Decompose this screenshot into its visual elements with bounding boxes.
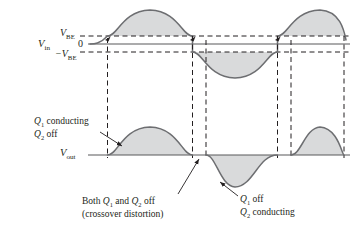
vbe-negative-label: −VBE — [55, 48, 77, 62]
leader-crossover — [178, 159, 199, 194]
leader-q1-conducting — [100, 132, 122, 146]
annotation-crossover-distortion: Both Q1 and Q2 off (crossover distortion… — [82, 196, 164, 220]
vout-axis-label: Vout — [60, 147, 76, 161]
vin-axis-label: Vin — [38, 38, 50, 52]
annotation-crossover-line1: Both Q1 and Q2 off — [82, 196, 164, 208]
zero-level-label: 0 — [78, 38, 83, 50]
vout-positive-lobe-1 — [108, 127, 193, 155]
vbe-positive-label: VBE — [60, 27, 75, 41]
vout-positive-lobe-2 — [291, 127, 344, 155]
vin-negative-shaded-lobe — [193, 52, 278, 78]
annotation-q1-off-line1: Q1 off — [240, 194, 295, 206]
vin-positive-shaded-lobe — [108, 10, 193, 36]
annotation-q1-off: Q1 off Q2 conducting — [240, 194, 295, 220]
annotation-q1-conducting-line1: Q1 conducting — [34, 116, 89, 128]
crossover-distortion-figure: Vin VBE 0 −VBE Vout Q1 conducting Q2 off… — [0, 0, 356, 234]
annotation-q1-off-line2: Q2 conducting — [240, 207, 295, 219]
annotation-q1-conducting: Q1 conducting Q2 off — [34, 116, 89, 142]
vout-negative-lobe — [206, 155, 278, 187]
annotation-crossover-line2: (crossover distortion) — [82, 209, 164, 220]
vin-positive-shaded-lobe-2 — [278, 10, 345, 36]
annotation-q1-conducting-line2: Q2 off — [34, 129, 89, 141]
